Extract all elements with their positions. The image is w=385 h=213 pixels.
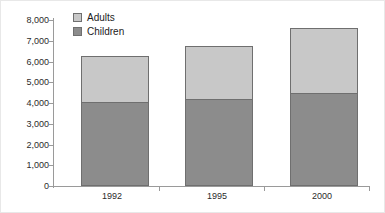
- y-axis-tick-label: 1,000: [1, 161, 49, 170]
- chart-legend: Adults Children: [73, 11, 124, 39]
- y-axis-tick-label: 7,000: [1, 37, 49, 46]
- legend-swatch-icon: [73, 13, 82, 22]
- bar-segment-children[interactable]: [81, 102, 149, 186]
- y-axis-tick-label: 6,000: [1, 58, 49, 67]
- x-axis-label-1995: 1995: [186, 191, 248, 201]
- y-axis-tick-label: 3,000: [1, 120, 49, 129]
- x-axis-line: [54, 186, 370, 187]
- bar-segment-children[interactable]: [185, 99, 253, 186]
- legend-item-adults[interactable]: Adults: [73, 11, 124, 24]
- bar-segment-children[interactable]: [290, 93, 358, 186]
- y-axis-tick-label: 4,000: [1, 99, 49, 108]
- x-axis-label-1992: 1992: [81, 191, 143, 201]
- chart-figure: 8,000 7,000 6,000 5,000 4,000 3,000 2,00…: [0, 0, 385, 213]
- bar-group-1995[interactable]: [185, 46, 253, 186]
- bar-segment-adults[interactable]: [81, 56, 149, 103]
- y-axis-tick-label: 2,000: [1, 141, 49, 150]
- y-axis-tick-mark: [49, 186, 54, 187]
- y-axis-tick-label: 8,000: [1, 16, 49, 25]
- x-axis-label-2000: 2000: [291, 191, 353, 201]
- legend-label-children: Children: [87, 26, 124, 37]
- bar-segment-adults[interactable]: [290, 28, 358, 94]
- bar-segment-adults[interactable]: [185, 46, 253, 100]
- y-axis-tick-label: 5,000: [1, 78, 49, 87]
- legend-item-children[interactable]: Children: [73, 25, 124, 38]
- legend-label-adults: Adults: [87, 12, 115, 23]
- y-axis-tick-label: 0: [1, 182, 49, 191]
- legend-swatch-icon: [73, 27, 82, 36]
- x-axis-tick-mark: [264, 187, 265, 191]
- bar-group-2000[interactable]: [290, 28, 358, 186]
- x-axis-tick-mark: [159, 187, 160, 191]
- plot-area: [54, 20, 370, 186]
- bar-group-1992[interactable]: [81, 56, 149, 186]
- x-axis-tick-mark: [369, 187, 370, 191]
